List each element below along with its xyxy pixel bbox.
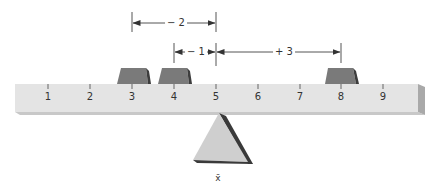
weight-at-4 — [158, 68, 192, 84]
tick-label-2: 2 — [87, 92, 93, 102]
fulcrum — [193, 113, 253, 164]
tick-label-8: 8 — [338, 92, 344, 102]
beam — [15, 84, 425, 115]
dimension-label-minus-2: − 2 — [165, 18, 187, 28]
tick-label-3: 3 — [129, 92, 135, 102]
tick-label-5: 5 — [213, 92, 219, 102]
diagram-canvas — [0, 0, 440, 191]
tick-label-1: 1 — [45, 92, 51, 102]
tick-label-9: 9 — [380, 92, 386, 102]
dimension-label-plus-3: + 3 — [273, 47, 295, 57]
balance-beam-diagram: 1 2 3 4 5 6 7 8 9 − 2 − 1 + 3 x̄ — [0, 0, 440, 191]
tick-label-4: 4 — [171, 92, 177, 102]
weight-at-8 — [325, 68, 359, 84]
fulcrum-label-x-bar: x̄ — [215, 173, 220, 183]
tick-label-6: 6 — [255, 92, 261, 102]
tick-label-7: 7 — [297, 92, 303, 102]
dimension-label-minus-1: − 1 — [185, 47, 207, 57]
weight-at-3 — [117, 68, 151, 84]
